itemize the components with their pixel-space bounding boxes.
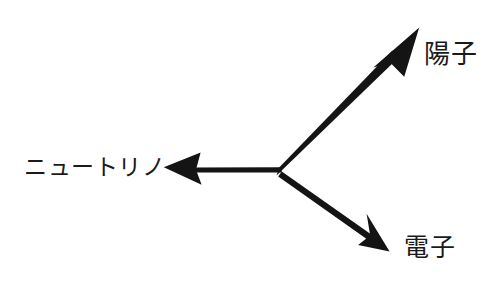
electron-vector-shaft xyxy=(278,171,372,240)
proton-vector-shaft xyxy=(277,51,399,176)
label-electron: 電子 xyxy=(404,235,456,260)
label-neutrino: ニュートリノ xyxy=(24,156,165,179)
proton-vector xyxy=(277,27,420,175)
diagram-canvas: 陽子 電子 ニュートリノ xyxy=(0,0,488,281)
neutrino-vector-head xyxy=(164,153,202,185)
neutrino-vector-shaft xyxy=(192,167,282,172)
neutrino-vector xyxy=(164,153,282,185)
label-proton: 陽子 xyxy=(424,41,478,67)
electron-vector xyxy=(278,171,389,251)
